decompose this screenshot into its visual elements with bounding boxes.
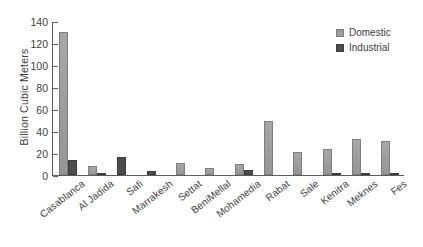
x-axis-label: Casablanca: [37, 178, 86, 220]
bar-domestic: [352, 139, 361, 175]
y-tick-label-100: 100: [30, 60, 48, 72]
x-axis-labels: CasablancaAl JadidaSafiMarrakeshSettatBe…: [53, 178, 405, 246]
y-tick-label-40: 40: [36, 126, 48, 138]
bar-group: [88, 166, 106, 175]
legend-label-domestic: Domestic: [349, 26, 391, 39]
bar-industrial: [390, 173, 399, 175]
bar-industrial: [332, 173, 341, 175]
x-axis-line: [52, 175, 404, 176]
bar-domestic: [235, 164, 244, 175]
chart-legend: Domestic Industrial: [336, 26, 391, 56]
y-tick-label-0: 0: [42, 170, 48, 182]
y-tick-label-140: 140: [30, 16, 48, 28]
bar-group: [147, 171, 165, 175]
legend-swatch-industrial-icon: [336, 44, 344, 52]
y-tick-0: 0: [53, 176, 58, 177]
legend-item-domestic: Domestic: [336, 26, 391, 39]
bar-group: [323, 149, 341, 175]
bar-group: [381, 141, 399, 175]
bar-group: [264, 121, 282, 175]
bar-group: [176, 163, 194, 175]
bar-group: [293, 152, 311, 175]
bar-industrial: [97, 173, 106, 175]
bar-group: [117, 157, 135, 175]
y-tick-label-120: 120: [30, 38, 48, 50]
bar-group: [352, 139, 370, 175]
y-tick-label-80: 80: [36, 82, 48, 94]
bar-domestic: [88, 166, 97, 175]
bar-domestic: [323, 149, 332, 175]
legend-item-industrial: Industrial: [336, 41, 391, 54]
legend-swatch-domestic-icon: [336, 29, 344, 37]
bar-domestic: [59, 32, 68, 175]
bar-group: [205, 168, 223, 175]
bar-industrial: [244, 170, 253, 176]
x-axis-label: Fes: [389, 178, 409, 197]
bar-domestic: [381, 141, 390, 175]
bar-domestic: [264, 121, 273, 175]
bar-industrial: [68, 160, 77, 175]
bar-group: [59, 32, 77, 175]
x-axis-label: Meknes: [345, 178, 380, 209]
bar-industrial: [117, 157, 126, 175]
x-axis-label: Kenitra: [318, 178, 350, 207]
y-tick-label-20: 20: [36, 148, 48, 160]
x-axis-label: Rabat: [264, 178, 292, 203]
y-tick-label-60: 60: [36, 104, 48, 116]
bar-domestic: [205, 168, 214, 175]
legend-label-industrial: Industrial: [349, 41, 390, 54]
bar-chart: Billion Cubic Meters 020406080100120140 …: [0, 0, 423, 247]
x-axis-label: Safi: [124, 178, 145, 198]
bar-domestic: [293, 152, 302, 175]
bar-industrial: [361, 173, 370, 175]
bar-domestic: [176, 163, 185, 175]
x-axis-label: Sale: [298, 178, 321, 199]
bar-group: [235, 164, 253, 175]
bar-industrial: [147, 171, 156, 175]
